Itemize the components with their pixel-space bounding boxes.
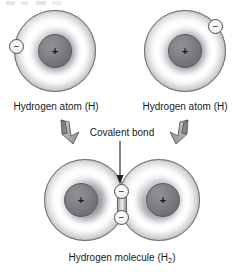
molecule-caption: Hydrogen molecule (H2) [47,252,197,263]
molecule-caption-suffix: ) [172,252,175,263]
left-hydrogen-atom-shell: + [14,10,96,92]
right-atom-electron: − [208,19,223,34]
molecule-caption-text: Hydrogen molecule (H [68,252,168,263]
molecule-caption-subscript: 2 [168,256,172,265]
molecule-right-atom-shell: + [118,159,200,241]
shared-electron-top: − [114,184,129,199]
hydrogen-bonding-diagram: + − Hydrogen atom (H) + − Hydrogen atom … [0,0,244,272]
right-atom-caption: Hydrogen atom (H) [134,101,236,112]
molecule-left-nucleus: + [64,183,98,217]
pointer-arrow-down-icon [114,141,126,185]
shell-sheen [14,10,96,92]
left-atom-electron: − [9,39,24,54]
molecule-right-nucleus: + [146,183,180,217]
covalent-bond-label: Covalent bond [82,127,162,138]
shared-electron-bottom: − [114,210,129,225]
shell-sheen [118,159,200,241]
scan-noise-artifact [6,1,68,5]
right-atom-nucleus: + [168,34,202,68]
block-arrow-down-right-icon [60,119,86,145]
block-arrow-down-left-icon [163,119,189,145]
left-atom-caption: Hydrogen atom (H) [6,101,106,112]
left-atom-nucleus: + [38,34,72,68]
